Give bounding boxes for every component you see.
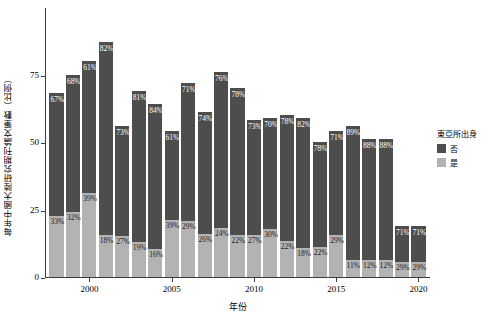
bar-segment-yes[interactable]: 39% bbox=[82, 193, 96, 277]
bar[interactable]: 73%27% bbox=[115, 126, 129, 277]
bar[interactable]: 71%29% bbox=[411, 226, 425, 277]
bar-label-no: 67% bbox=[50, 95, 64, 104]
bar-segment-no[interactable]: 71% bbox=[329, 131, 343, 235]
bar-segment-yes[interactable]: 26% bbox=[198, 234, 212, 277]
bar-segment-no[interactable]: 81% bbox=[132, 91, 146, 242]
bar[interactable]: 89%11% bbox=[346, 126, 360, 277]
bar-label-no: 73% bbox=[248, 122, 262, 131]
bar-segment-yes[interactable]: 19% bbox=[132, 242, 146, 277]
bar-segment-yes[interactable]: 22% bbox=[230, 235, 244, 277]
bar-segment-no[interactable]: 82% bbox=[99, 42, 113, 235]
bar[interactable]: 88%12% bbox=[379, 139, 393, 277]
bar-segment-no[interactable]: 68% bbox=[66, 75, 80, 213]
bar[interactable]: 67%33% bbox=[49, 93, 63, 277]
bar-segment-yes[interactable]: 12% bbox=[379, 260, 393, 277]
bar-segment-yes[interactable]: 24% bbox=[214, 228, 228, 277]
bar-label-no: 82% bbox=[297, 120, 311, 129]
y-tick-label: 25 bbox=[19, 205, 39, 215]
y-tick-label: 0 bbox=[19, 272, 39, 282]
bar[interactable]: 82%18% bbox=[296, 118, 310, 277]
bar-segment-no[interactable]: 61% bbox=[82, 61, 96, 193]
bar-label-yes: 16% bbox=[149, 250, 163, 259]
bar-segment-yes[interactable]: 27% bbox=[115, 236, 129, 277]
bar-segment-yes[interactable]: 27% bbox=[247, 235, 261, 277]
bar-segment-yes[interactable]: 33% bbox=[49, 216, 63, 277]
bar-segment-no[interactable]: 78% bbox=[280, 115, 294, 241]
x-axis-title: 年份 bbox=[45, 300, 430, 313]
bar-segment-yes[interactable]: 39% bbox=[165, 220, 179, 277]
bar-label-no: 74% bbox=[199, 114, 213, 123]
bar[interactable]: 78%22% bbox=[280, 115, 294, 277]
x-tick bbox=[336, 278, 337, 282]
bar[interactable]: 70%30% bbox=[263, 118, 277, 277]
bar-segment-no[interactable]: 71% bbox=[395, 226, 409, 262]
legend: 東亞所出身 否是 bbox=[437, 128, 491, 171]
bar[interactable]: 71%29% bbox=[395, 226, 409, 277]
bar-segment-no[interactable]: 82% bbox=[296, 118, 310, 249]
bar-label-no: 88% bbox=[363, 141, 377, 150]
x-tick-label: 2010 bbox=[234, 284, 274, 294]
plot-area: 0255075 20002005201020152020 67%33%68%32… bbox=[45, 8, 430, 278]
bar-segment-yes[interactable]: 30% bbox=[263, 229, 277, 277]
bar[interactable]: 76%24% bbox=[214, 72, 228, 277]
bar-label-yes: 22% bbox=[281, 242, 295, 251]
bar-label-no: 70% bbox=[264, 120, 278, 129]
bar[interactable]: 73%27% bbox=[247, 120, 261, 277]
bar[interactable]: 81%19% bbox=[132, 91, 146, 277]
bar-segment-no[interactable]: 67% bbox=[49, 93, 63, 216]
bar-segment-no[interactable]: 73% bbox=[247, 120, 261, 234]
bar[interactable]: 82%18% bbox=[99, 42, 113, 277]
bar-label-yes: 30% bbox=[264, 230, 278, 239]
bar[interactable]: 74%26% bbox=[198, 112, 212, 277]
bar[interactable]: 84%16% bbox=[148, 104, 162, 277]
bar-label-no: 73% bbox=[116, 128, 130, 137]
bar-segment-yes[interactable]: 12% bbox=[362, 260, 376, 277]
legend-entries: 否是 bbox=[437, 143, 491, 168]
bar-label-yes: 19% bbox=[133, 243, 147, 252]
bar-label-yes: 27% bbox=[116, 237, 130, 246]
bar-segment-yes[interactable]: 22% bbox=[313, 247, 327, 277]
bar-segment-yes[interactable]: 29% bbox=[395, 262, 409, 277]
bar-label-no: 71% bbox=[182, 85, 196, 94]
bar-segment-yes[interactable]: 29% bbox=[181, 221, 195, 277]
bar[interactable]: 78%22% bbox=[313, 142, 327, 277]
legend-item[interactable]: 否 bbox=[437, 143, 491, 154]
bar-segment-yes[interactable]: 11% bbox=[346, 260, 360, 277]
bar-segment-no[interactable]: 88% bbox=[379, 139, 393, 260]
bar-label-no: 78% bbox=[314, 144, 328, 153]
bar-segment-no[interactable]: 74% bbox=[198, 112, 212, 234]
bar-segment-no[interactable]: 78% bbox=[313, 142, 327, 247]
bar-segment-no[interactable]: 76% bbox=[214, 72, 228, 228]
bar-segment-yes[interactable]: 22% bbox=[280, 241, 294, 277]
bar-segment-no[interactable]: 70% bbox=[263, 118, 277, 230]
bar[interactable]: 88%12% bbox=[362, 139, 376, 277]
bar-segment-no[interactable]: 84% bbox=[148, 104, 162, 249]
bar-segment-no[interactable]: 88% bbox=[362, 139, 376, 260]
legend-label: 是 bbox=[450, 157, 458, 168]
legend-item[interactable]: 是 bbox=[437, 157, 491, 168]
bar-segment-no[interactable]: 78% bbox=[230, 88, 244, 235]
y-axis-line bbox=[45, 8, 46, 278]
bar-segment-yes[interactable]: 18% bbox=[296, 248, 310, 277]
bar-label-no: 76% bbox=[215, 74, 229, 83]
x-axis-line bbox=[45, 277, 430, 278]
bar-segment-yes[interactable]: 32% bbox=[66, 212, 80, 277]
bar-segment-no[interactable]: 89% bbox=[346, 126, 360, 261]
bar[interactable]: 68%32% bbox=[66, 75, 80, 278]
bar-label-no: 88% bbox=[380, 141, 394, 150]
bar[interactable]: 61%39% bbox=[165, 131, 179, 277]
bar[interactable]: 78%22% bbox=[230, 88, 244, 277]
bar-segment-yes[interactable]: 29% bbox=[411, 262, 425, 277]
x-tick bbox=[254, 278, 255, 282]
bar[interactable]: 61%39% bbox=[82, 61, 96, 277]
bar-segment-yes[interactable]: 29% bbox=[329, 235, 343, 277]
bar-segment-yes[interactable]: 18% bbox=[99, 235, 113, 277]
bar-segment-no[interactable]: 73% bbox=[115, 126, 129, 236]
bar-segment-yes[interactable]: 16% bbox=[148, 249, 162, 277]
bar-segment-no[interactable]: 61% bbox=[165, 131, 179, 220]
bar[interactable]: 71%29% bbox=[329, 131, 343, 277]
bar-segment-no[interactable]: 71% bbox=[411, 226, 425, 262]
bar-label-yes: 22% bbox=[231, 236, 245, 245]
bar-segment-no[interactable]: 71% bbox=[181, 83, 195, 221]
bar[interactable]: 71%29% bbox=[181, 83, 195, 277]
